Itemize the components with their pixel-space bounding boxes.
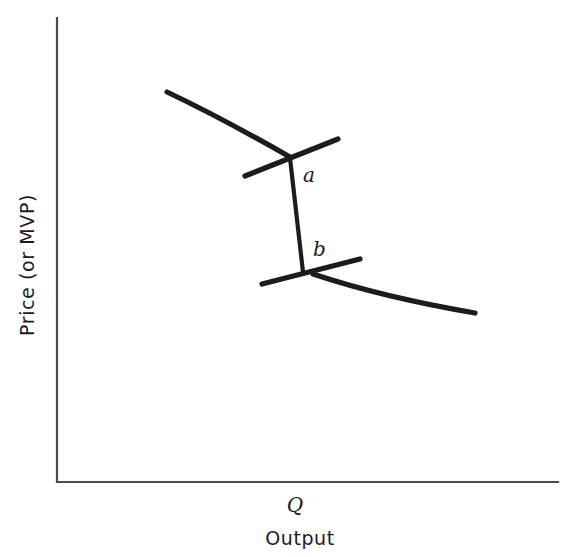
y-axis-title: Price (or MVP) [16, 194, 38, 336]
point-label-a: a [303, 163, 315, 187]
demand-curve-lower [313, 274, 475, 313]
point-label-b: b [313, 237, 326, 261]
curves-group [167, 92, 475, 313]
price-line-b [262, 259, 360, 284]
economics-diagram: a b Q Output Price (or MVP) [0, 0, 570, 557]
vertical-connector-segment [290, 158, 303, 272]
demand-curve-upper [167, 92, 290, 157]
x-axis-title: Output [265, 527, 335, 549]
axes-group [57, 18, 558, 482]
x-tick-label-q: Q [287, 493, 303, 517]
